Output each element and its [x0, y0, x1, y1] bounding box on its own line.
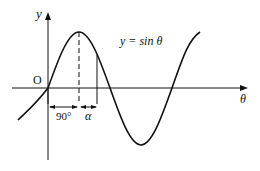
sine-diagram: y O θ y = sin θ 90° α — [0, 0, 260, 171]
x-axis-label: θ — [240, 92, 246, 106]
arrowhead-icon — [91, 105, 97, 109]
y-axis-label: y — [34, 6, 42, 21]
arrowhead-icon — [72, 105, 78, 109]
y-axis-arrow-icon — [45, 12, 51, 20]
curve-label: y = sin θ — [119, 34, 162, 48]
arrowhead-icon — [49, 105, 55, 109]
interval-90-label: 90° — [56, 110, 71, 122]
x-axis-arrow-icon — [240, 85, 248, 91]
origin-label: O — [33, 73, 42, 87]
interval-alpha-label: α — [85, 109, 92, 123]
